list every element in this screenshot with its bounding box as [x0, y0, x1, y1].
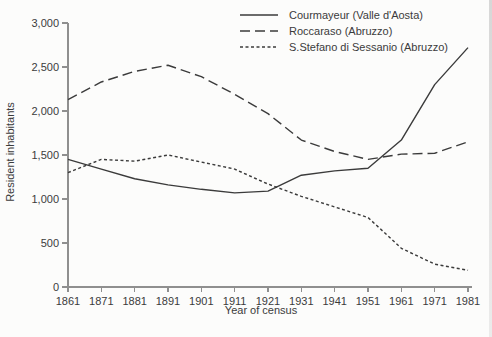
census-population-chart: Resident inhabitants Year of census 0500… — [0, 0, 492, 337]
y-tick-label: 0 — [53, 281, 59, 293]
data-series — [68, 48, 468, 271]
x-tick-label: 1931 — [289, 295, 313, 307]
legend-item-roccaraso: Roccaraso (Abruzzo) — [240, 23, 448, 39]
y-tick-label: 500 — [41, 237, 59, 249]
solid-line-sample-icon — [240, 7, 278, 23]
y-tick-label: 3,000 — [31, 17, 59, 29]
legend: Courmayeur (Valle d'Aosta) Roccaraso (Ab… — [240, 7, 448, 55]
fine-dash-line-sample-icon — [240, 39, 278, 55]
x-tick-label: 1921 — [256, 295, 280, 307]
long-dash-line-sample-icon — [240, 23, 278, 39]
x-tick-label: 1941 — [322, 295, 346, 307]
x-tick-label: 1891 — [156, 295, 180, 307]
y-tick-label: 2,000 — [31, 105, 59, 117]
legend-label-courmayeur: Courmayeur (Valle d'Aosta) — [289, 9, 423, 21]
x-tick-label: 1911 — [223, 295, 247, 307]
series-s-stefano-di-sessanio — [68, 155, 468, 270]
legend-label-roccaraso: Roccaraso (Abruzzo) — [289, 25, 392, 37]
x-tick-label: 1961 — [389, 295, 413, 307]
x-tick-label: 1981 — [456, 295, 480, 307]
x-tick-label: 1861 — [56, 295, 80, 307]
x-tick-label: 1881 — [122, 295, 146, 307]
legend-item-courmayeur: Courmayeur (Valle d'Aosta) — [240, 7, 448, 23]
series-roccaraso — [68, 65, 468, 159]
y-tick-label: 1,000 — [31, 193, 59, 205]
x-tick-label: 1871 — [89, 295, 113, 307]
legend-label-s-stefano: S.Stefano di Sessanio (Abruzzo) — [289, 41, 448, 53]
legend-item-s-stefano: S.Stefano di Sessanio (Abruzzo) — [240, 39, 448, 55]
x-tick-label: 1971 — [422, 295, 446, 307]
y-tick-label: 1,500 — [31, 149, 59, 161]
x-tick-label: 1951 — [356, 295, 380, 307]
y-axis-title: Resident inhabitants — [4, 102, 16, 202]
series-courmayeur — [68, 48, 468, 193]
axes: 05001,0001,5002,0002,5003,00018611871188… — [31, 17, 480, 307]
x-tick-label: 1901 — [189, 295, 213, 307]
y-tick-label: 2,500 — [31, 61, 59, 73]
